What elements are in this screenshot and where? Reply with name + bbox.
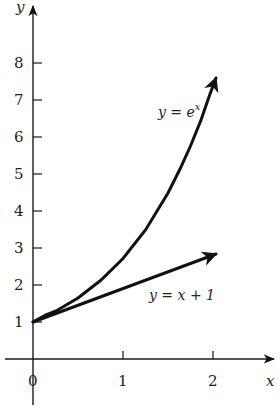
x-axis-label: x	[266, 372, 275, 390]
linear-line-label: y = x + 1	[148, 287, 215, 303]
y-tick-label: 3	[14, 239, 24, 257]
y-tick-label: 1	[14, 313, 24, 331]
x-tick-label: 0	[28, 372, 38, 390]
y-axis-label: y	[15, 0, 25, 16]
y-tick-label: 7	[14, 91, 24, 109]
chart: 1 2 3 4 5 6 7 8 0 1 2 y x y = ex y = x +…	[0, 0, 280, 411]
y-tick-label: 5	[14, 165, 24, 183]
y-tick-label: 4	[14, 202, 24, 220]
exp-curve-label: y = ex	[157, 101, 201, 120]
x-tick-label: 1	[118, 372, 128, 390]
y-tick-label: 2	[14, 276, 24, 294]
x-ticks	[123, 351, 213, 359]
y-tick-label: 6	[14, 128, 24, 146]
x-tick-label: 2	[208, 372, 218, 390]
y-ticks	[33, 63, 42, 322]
y-tick-label: 8	[14, 54, 24, 72]
